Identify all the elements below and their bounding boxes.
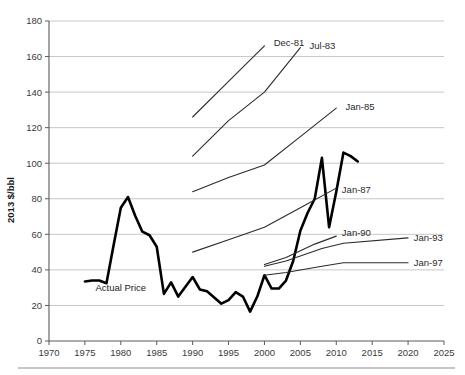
x-tick-label-1980: 1980 (110, 347, 131, 358)
x-tick-label-2005: 2005 (290, 347, 311, 358)
y-tick-label-100: 100 (26, 158, 42, 169)
y-tick-label-180: 180 (26, 15, 42, 26)
x-tick-label-2015: 2015 (362, 347, 383, 358)
y-axis-title: 2013 $/bbl (5, 177, 16, 223)
series-label-jan-90: Jan-90 (342, 227, 371, 238)
series-label-jan-93: Jan-93 (414, 232, 443, 243)
y-tick-label-20: 20 (31, 300, 42, 311)
y-tick-label-120: 120 (26, 122, 42, 133)
x-tick-label-2025: 2025 (433, 347, 454, 358)
x-tick-label-2010: 2010 (326, 347, 347, 358)
data-series (85, 46, 408, 312)
y-tick-label-160: 160 (26, 51, 42, 62)
x-tick-label-2000: 2000 (254, 347, 275, 358)
x-tick-label-1990: 1990 (182, 347, 203, 358)
chart-canvas: 020406080100120140160180 197019751980198… (0, 0, 465, 375)
series-label-jan-87: Jan-87 (342, 184, 371, 195)
x-tick-label-1995: 1995 (218, 347, 239, 358)
x-tick-label-1975: 1975 (74, 347, 95, 358)
y-tick-label-80: 80 (31, 193, 42, 204)
x-tick-label-1985: 1985 (146, 347, 167, 358)
series-line-jan-85 (193, 108, 337, 192)
y-tick-label-40: 40 (31, 264, 42, 275)
series-line-jan-93 (264, 238, 408, 266)
series-label-dec-81: Dec-81 (274, 37, 305, 48)
series-line-jan-90 (264, 236, 336, 264)
y-tick-label-140: 140 (26, 87, 42, 98)
series-line-jan-97 (264, 263, 408, 275)
x-tick-label-2020: 2020 (398, 347, 419, 358)
x-axis-ticks: 1970197519801985199019952000200520102015… (38, 341, 454, 358)
series-label-jan-97: Jan-97 (414, 257, 443, 268)
y-axis-ticks: 020406080100120140160180 (26, 15, 49, 346)
oil-price-projection-chart: 020406080100120140160180 197019751980198… (0, 0, 465, 375)
y-tick-label-60: 60 (31, 229, 42, 240)
annotation-actual-price: Actual Price (95, 282, 146, 293)
x-tick-label-1970: 1970 (38, 347, 59, 358)
series-label-jul-83: Jul-83 (310, 40, 336, 51)
y-tick-label-0: 0 (37, 335, 42, 346)
chart-annotations: Actual Price (95, 282, 146, 293)
series-label-jan-85: Jan-85 (345, 101, 374, 112)
y-axis-title-text: 2013 $/bbl (5, 177, 16, 223)
